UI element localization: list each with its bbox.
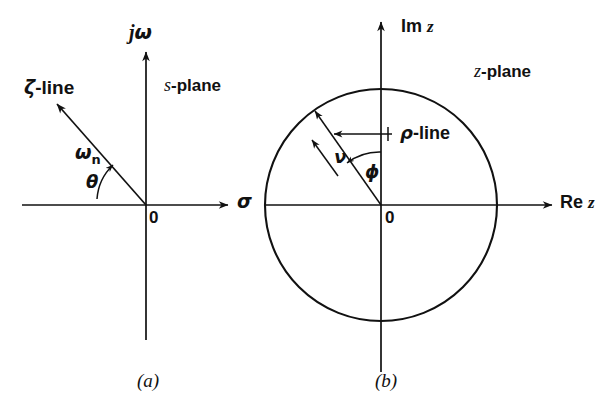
z-plane-suffix: -plane xyxy=(481,62,531,81)
rho-symbol: ρ xyxy=(400,122,413,143)
j-omega-axis-label: jω xyxy=(129,22,152,42)
panel-b-caption: (b) xyxy=(375,371,397,390)
sigma-axis-label: σ xyxy=(237,192,252,211)
rho-line-suffix: -line xyxy=(413,123,450,143)
z-plane-origin-label: 0 xyxy=(385,209,394,226)
nu-label: ν xyxy=(334,148,346,166)
rho-line-label: ρ-line xyxy=(400,124,450,142)
zeta-line-label: ζ-line xyxy=(24,78,74,97)
z-plane-label: z-plane xyxy=(474,62,531,80)
zeta-line-suffix: -line xyxy=(35,77,74,98)
theta-label: θ xyxy=(86,173,98,191)
im-text: Im xyxy=(401,16,422,36)
z-symbol-re: z xyxy=(588,193,595,212)
re-z-axis-label: Rez xyxy=(560,193,595,211)
s-plane-label: s-plane xyxy=(164,76,221,94)
theta-angle-arc xyxy=(97,165,113,199)
panel-a-caption: (a) xyxy=(137,371,159,390)
s-symbol: s xyxy=(164,75,171,95)
omega-symbol: ω xyxy=(135,20,152,44)
z-symbol-plane: z xyxy=(474,61,481,81)
omega-n-label: ωn xyxy=(75,143,101,167)
figure-container: ζ-line jω s-plane ωn θ 0 σ (a) Imz z-pla… xyxy=(0,0,614,410)
s-plane-origin-label: 0 xyxy=(149,209,158,226)
zeta-line-ray xyxy=(57,104,146,205)
re-text: Re xyxy=(560,192,583,212)
omega-n-symbol: ω xyxy=(75,141,92,163)
phi-label: ϕ xyxy=(365,163,379,181)
s-plane-suffix: -plane xyxy=(171,76,221,95)
omega-n-subscript: n xyxy=(92,152,101,167)
im-z-axis-label: Imz xyxy=(401,17,434,35)
z-symbol-im: z xyxy=(427,17,434,36)
zeta-symbol: ζ xyxy=(24,76,35,98)
